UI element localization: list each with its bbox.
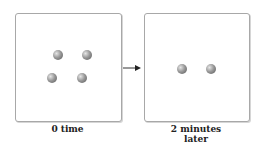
- particle-ball-icon: [77, 73, 87, 83]
- particle-ball-icon: [82, 50, 92, 60]
- caption-line: later: [144, 134, 248, 144]
- particle-ball-icon: [53, 50, 63, 60]
- panel-0-time: [15, 13, 122, 122]
- particle-ball-icon: [177, 64, 187, 74]
- caption-line: 0 time: [15, 124, 120, 134]
- particle-ball-icon: [206, 64, 216, 74]
- panel-2-minutes-later: [144, 13, 250, 122]
- particle-ball-icon: [47, 73, 57, 83]
- caption-0-time: 0 time: [15, 124, 120, 134]
- caption-line: 2 minutes: [144, 124, 248, 134]
- caption-2-minutes-later: 2 minutes later: [144, 124, 248, 144]
- right-arrow-icon: [122, 63, 142, 73]
